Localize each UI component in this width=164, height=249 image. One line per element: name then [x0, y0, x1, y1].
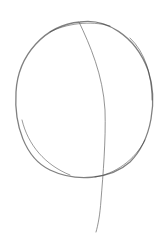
sketch-vertical-line [79, 22, 105, 232]
sketch-canvas [0, 0, 164, 249]
sketch-circle-overstroke [22, 23, 152, 177]
sketch-circle [16, 21, 153, 177]
